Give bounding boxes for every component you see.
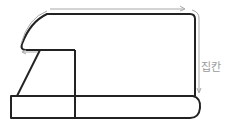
compartment-label: 집칸: [201, 58, 221, 74]
base-bar: [11, 96, 200, 118]
windshield-line: [17, 50, 40, 96]
upper-body: [22, 14, 196, 96]
vehicle-outline: [11, 14, 200, 118]
